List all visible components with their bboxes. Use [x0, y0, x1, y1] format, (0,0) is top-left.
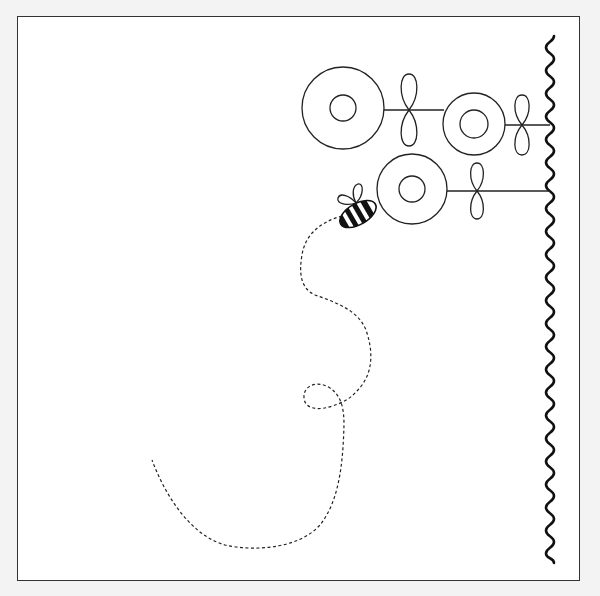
bee-wing [353, 184, 362, 203]
flower-icon [377, 154, 447, 224]
bee-illustration [0, 0, 600, 596]
wavy-vine [546, 36, 554, 563]
bee-icon [332, 184, 383, 239]
flight-path [152, 216, 371, 548]
flower-icon [302, 67, 384, 149]
flower-icon [443, 93, 505, 155]
